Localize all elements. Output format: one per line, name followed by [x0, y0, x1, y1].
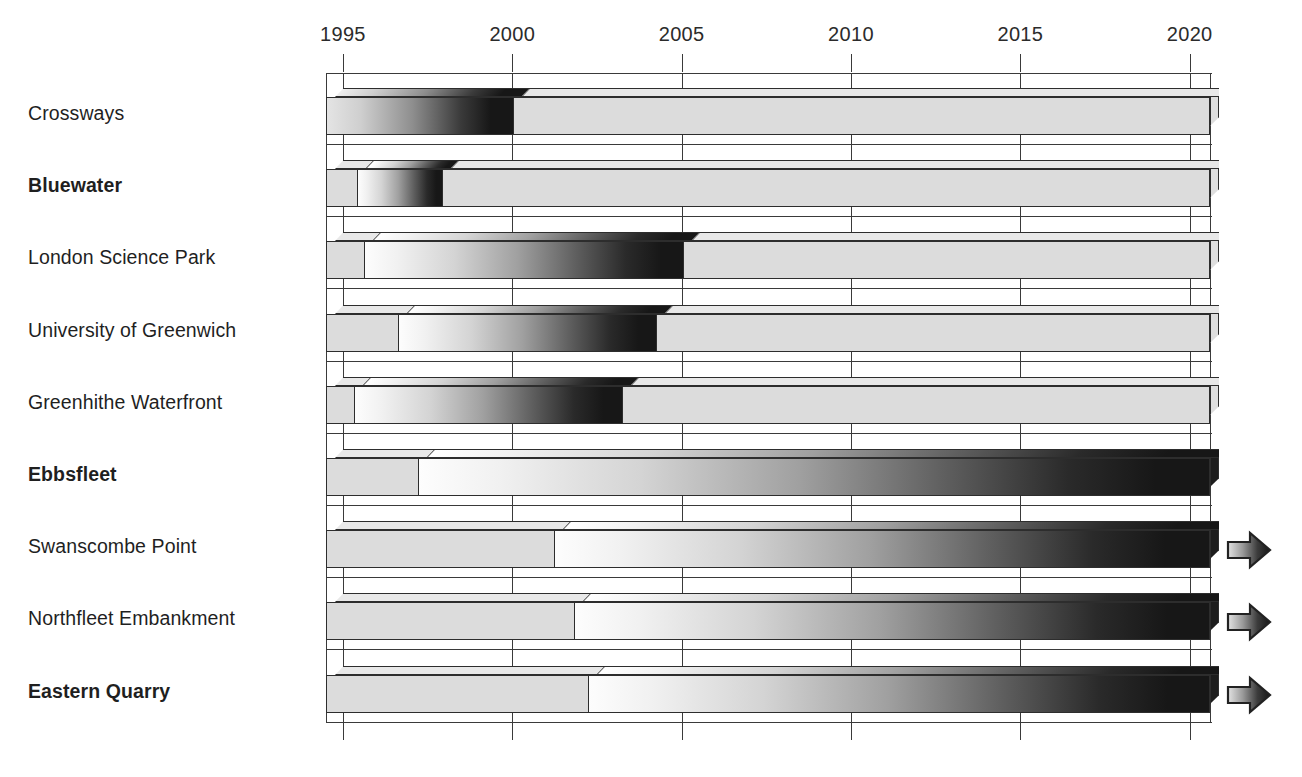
- bar-right-face: [1210, 386, 1219, 424]
- bar-front-face: [326, 675, 1210, 713]
- row-label-bluewater: Bluewater: [28, 174, 122, 197]
- timeline-bar[interactable]: [326, 232, 1219, 279]
- bar-top-segment-complete: [631, 378, 1219, 385]
- bar-top-face: [326, 160, 1219, 169]
- bar-segment-complete: [656, 315, 1210, 351]
- row-separator-rail: [326, 649, 1212, 650]
- bar-top-face: [326, 377, 1219, 386]
- row-label-northfleet-embankment: Northfleet Embankment: [28, 607, 235, 630]
- row-separator-rail: [326, 288, 1212, 289]
- bar-top-face: [326, 521, 1219, 530]
- continuation-arrow-icon: [1226, 602, 1272, 642]
- axis-tick-bottom-2000: [512, 722, 513, 740]
- axis-tick-bottom-2010: [851, 722, 852, 740]
- bar-front-face: [326, 241, 1210, 279]
- bar-top-segment-ramp-to-dark: [407, 306, 671, 313]
- bar-top-segment-complete: [692, 233, 1219, 240]
- bar-front-face: [326, 169, 1210, 207]
- axis-tick-top-2015: [1020, 54, 1021, 72]
- gantt-chart: 199520002005201020152020CrosswaysBluewat…: [0, 0, 1302, 777]
- row-label-university-of-greenwich: University of Greenwich: [28, 319, 236, 342]
- row-label-crossways: Crossways: [28, 102, 124, 125]
- bar-top-face: [326, 88, 1219, 97]
- bar-segment-ramp-to-dark: [357, 170, 442, 206]
- axis-tick-top-2005: [682, 54, 683, 72]
- row-label-ebbsfleet: Ebbsfleet: [28, 463, 117, 486]
- row-separator-rail: [326, 144, 1212, 145]
- bar-front-face: [326, 530, 1210, 568]
- bar-top-segment-planning: [336, 306, 414, 313]
- row-separator-rail: [326, 505, 1212, 506]
- bar-top-face: [326, 449, 1219, 458]
- bar-top-segment-ramp-to-dark: [563, 522, 1219, 529]
- timeline-bar[interactable]: [326, 377, 1219, 424]
- bar-right-face: [1210, 241, 1219, 279]
- bar-segment-ramp-to-dark: [588, 676, 1210, 712]
- axis-tick-top-2010: [851, 54, 852, 72]
- bar-right-face: [1210, 530, 1219, 568]
- timeline-bar[interactable]: [326, 521, 1219, 568]
- timeline-bar[interactable]: [326, 160, 1219, 207]
- axis-tick-label-2000: 2000: [489, 23, 535, 46]
- bar-segment-complete: [513, 98, 1210, 134]
- bar-segment-planning: [327, 315, 398, 351]
- bar-top-face: [326, 666, 1219, 675]
- bar-segment-planning: [327, 170, 357, 206]
- bar-segment-ramp-to-dark: [574, 603, 1210, 639]
- bar-top-segment-ramp-to-dark: [336, 89, 529, 96]
- timeline-bar[interactable]: [326, 666, 1219, 713]
- bar-segment-ramp-to-dark: [327, 98, 513, 134]
- bar-front-face: [326, 314, 1210, 352]
- timeline-bar[interactable]: [326, 305, 1219, 352]
- bar-segment-planning: [327, 676, 588, 712]
- bar-front-face: [326, 97, 1210, 135]
- row-separator-rail: [326, 722, 1212, 723]
- axis-tick-bottom-2005: [682, 722, 683, 740]
- bar-front-face: [326, 602, 1210, 640]
- axis-tick-bottom-1995: [343, 722, 344, 740]
- bar-top-segment-planning: [336, 522, 570, 529]
- axis-tick-top-2020: [1190, 54, 1191, 72]
- bar-right-face: [1210, 602, 1219, 640]
- row-separator-rail: [326, 361, 1212, 362]
- row-separator-rail: [326, 577, 1212, 578]
- axis-top-rail: [326, 73, 1212, 74]
- timeline-bar[interactable]: [326, 593, 1219, 640]
- axis-tick-bottom-2015: [1020, 722, 1021, 740]
- bar-top-face: [326, 305, 1219, 314]
- bar-segment-ramp-to-dark: [364, 242, 682, 278]
- bar-segment-ramp-to-dark: [354, 387, 622, 423]
- bar-top-segment-complete: [522, 89, 1219, 96]
- timeline-bar[interactable]: [326, 88, 1219, 135]
- axis-tick-bottom-2020: [1190, 722, 1191, 740]
- axis-tick-label-2020: 2020: [1167, 23, 1213, 46]
- axis-tick-top-1995: [343, 54, 344, 72]
- bar-top-segment-planning: [336, 594, 590, 601]
- bar-front-face: [326, 386, 1210, 424]
- row-separator-rail: [326, 433, 1212, 434]
- bar-top-segment-ramp-to-dark: [373, 233, 698, 240]
- bar-top-segment-ramp-to-dark: [366, 161, 457, 168]
- bar-top-segment-ramp-to-dark: [363, 378, 637, 385]
- bar-segment-ramp-to-dark: [418, 459, 1210, 495]
- bar-top-segment-planning: [336, 667, 604, 674]
- bar-right-face: [1210, 169, 1219, 207]
- bar-right-face: [1210, 675, 1219, 713]
- bar-segment-planning: [327, 242, 364, 278]
- bar-top-segment-complete: [664, 306, 1219, 313]
- row-label-swanscombe-point: Swanscombe Point: [28, 535, 197, 558]
- bar-segment-complete: [442, 170, 1210, 206]
- bar-right-face: [1210, 314, 1219, 352]
- bar-top-face: [326, 593, 1219, 602]
- bar-front-face: [326, 458, 1210, 496]
- bar-right-face: [1210, 97, 1219, 135]
- axis-tick-label-2015: 2015: [997, 23, 1043, 46]
- axis-tick-label-2010: 2010: [828, 23, 874, 46]
- axis-tick-top-2000: [512, 54, 513, 72]
- bar-segment-planning: [327, 459, 418, 495]
- continuation-arrow-icon: [1226, 530, 1272, 570]
- bar-top-segment-ramp-to-dark: [597, 667, 1219, 674]
- timeline-bar[interactable]: [326, 449, 1219, 496]
- bar-segment-ramp-to-dark: [554, 531, 1210, 567]
- axis-tick-label-1995: 1995: [320, 23, 366, 46]
